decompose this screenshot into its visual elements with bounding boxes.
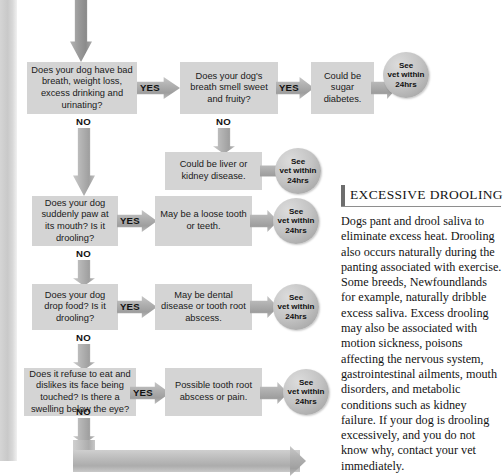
article-rule (341, 206, 501, 207)
no-arrow-2-icon (213, 128, 235, 154)
no-arrow-4-icon (73, 344, 95, 370)
yes-label-2: YES (279, 82, 299, 93)
outcome-circle-4[interactable]: See vet within 24hrs (273, 284, 319, 330)
diagnosis-box-4: May be dental disease or tooth root absc… (155, 284, 252, 330)
question-1-text: Does your dog have bad breath, weight lo… (31, 65, 133, 111)
outcome-circle-3[interactable]: See vet within 24hrs (273, 198, 319, 244)
outcome-2-text: See vet within 24hrs (280, 157, 317, 186)
diagnosis-box-3: May be a loose tooth or teeth. (155, 196, 252, 246)
page-edge-strip (0, 0, 17, 461)
diagnosis-box-2: Could be liver or kidney disease. (165, 152, 262, 190)
no-arrow-1-icon (73, 128, 95, 196)
diagnosis-1-text: Could be sugar diabetes. (315, 71, 370, 106)
no-label-5: NO (76, 406, 91, 417)
no-label-3: NO (76, 248, 91, 259)
diagnosis-3-text: May be a loose tooth or teeth. (159, 209, 248, 232)
article-title: EXCESSIVE DROOLING (350, 187, 503, 203)
no-arrow-3-icon (73, 260, 95, 286)
outcome-line-24hrs: 24hrs (395, 80, 416, 89)
continuation-connector-horizontal (73, 450, 300, 472)
no-label-2: NO (216, 116, 231, 127)
diagnosis-5-text: Possible tooth root abscess or pain. (169, 380, 258, 403)
question-box-1[interactable]: Does your dog have bad breath, weight lo… (27, 62, 137, 114)
no-label-1: NO (76, 116, 91, 127)
outcome-3-text: See vet within 24hrs (278, 207, 315, 236)
question-box-3[interactable]: Does your dog suddenly paw at its mouth?… (32, 196, 118, 246)
outcome-line-see: See (291, 157, 305, 166)
outcome-circle-1[interactable]: See vet within 24hrs (383, 52, 429, 98)
entry-arrow-down-icon (70, 0, 92, 62)
outcome-1-text: See vet within 24hrs (388, 61, 425, 90)
outcome-line-vet-within: vet within (288, 387, 325, 396)
diagnosis-2-text: Could be liver or kidney disease. (169, 159, 258, 182)
outcome-circle-5[interactable]: See vet within 24hrs (283, 369, 329, 415)
outcome-4-text: See vet within 24hrs (278, 293, 315, 322)
outcome-line-vet-within: vet within (280, 166, 317, 175)
question-2-text: Does your dog's breath smell sweet and f… (184, 71, 274, 106)
outcome-circle-2[interactable]: See vet within 24hrs (275, 148, 321, 194)
yes-label-5: YES (133, 387, 153, 398)
no-label-4: NO (76, 332, 91, 343)
outcome-line-see: See (399, 61, 413, 70)
outcome-line-see: See (299, 378, 313, 387)
question-4-text: Does your dog drop food? Is it drooling? (36, 290, 114, 325)
outcome-line-24hrs: 24hrs (285, 226, 306, 235)
yes-label-3: YES (120, 215, 140, 226)
question-box-4[interactable]: Does your dog drop food? Is it drooling? (32, 284, 118, 330)
article-body: Dogs pant and drool saliva to eliminate … (341, 214, 502, 474)
outcome-line-see: See (289, 207, 303, 216)
article-accent-bar (341, 185, 345, 206)
diagnosis-4-text: May be dental disease or tooth root absc… (159, 290, 248, 325)
yes-label-1: YES (140, 82, 160, 93)
outcome-line-24hrs: 24hrs (287, 176, 308, 185)
diagnosis-box-1: Could be sugar diabetes. (311, 62, 374, 114)
outcome-line-24hrs: 24hrs (295, 397, 316, 406)
question-box-2[interactable]: Does your dog's breath smell sweet and f… (180, 62, 278, 114)
outcome-line-24hrs: 24hrs (285, 312, 306, 321)
yes-label-4: YES (120, 301, 140, 312)
outcome-line-vet-within: vet within (278, 216, 315, 225)
outcome-5-text: See vet within 24hrs (288, 378, 325, 407)
outcome-line-vet-within: vet within (278, 302, 315, 311)
outcome-line-vet-within: vet within (388, 70, 425, 79)
outcome-line-see: See (289, 293, 303, 302)
diagnosis-box-5: Possible tooth root abscess or pain. (165, 368, 262, 416)
question-3-text: Does your dog suddenly paw at its mouth?… (36, 198, 114, 244)
